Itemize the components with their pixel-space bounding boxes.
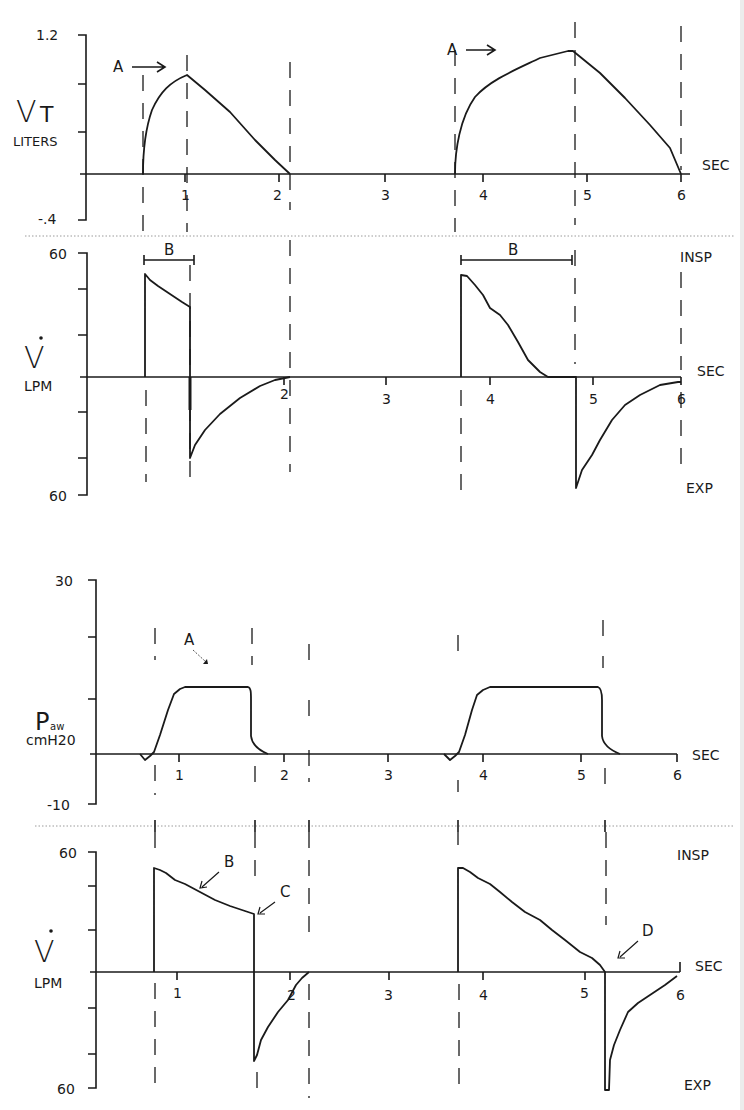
y-label-p-sub: aw — [50, 721, 64, 732]
annotation-a: A — [184, 631, 195, 649]
pressure-trace-breath-2 — [444, 687, 620, 760]
x-tick-label: 2 — [280, 767, 289, 783]
annotation-c: C — [280, 883, 290, 901]
y-axis — [88, 580, 96, 804]
y-label-vdot: V — [34, 934, 55, 969]
insp-label: INSP — [680, 249, 712, 265]
flow-trace-breath-2 — [458, 868, 677, 1090]
x-tick-label: 1 — [175, 767, 184, 783]
y-tick-top: 30 — [55, 573, 73, 589]
pressure-trace-breath-1 — [140, 687, 268, 760]
x-tick-label: 4 — [479, 187, 488, 203]
annotation-d: D — [642, 922, 654, 940]
exp-label: EXP — [686, 480, 713, 496]
y-label-unit: LITERS — [13, 134, 58, 149]
page-edge-shadow — [740, 0, 744, 1110]
panel-flow-2: 60 60 V LPM 1 2 3 4 5 6 INSP SEC EXP B C… — [34, 832, 723, 1098]
panel-airway-pressure: 30 -10 P aw cmH20 1 2 3 4 5 6 SEC A — [26, 573, 720, 813]
y-tick-bottom: -10 — [47, 797, 70, 813]
dashed-markers — [143, 22, 681, 232]
x-ticks — [179, 754, 677, 762]
x-tick-label: 6 — [676, 987, 685, 1003]
annotation-b: B — [508, 241, 518, 259]
x-ticks — [185, 174, 681, 182]
x-tick-label: 4 — [479, 767, 488, 783]
x-tick-label: 3 — [384, 987, 393, 1003]
arrow-b-icon — [200, 872, 219, 888]
x-tick-label: 5 — [589, 391, 598, 407]
x-tick-label: 1 — [181, 187, 190, 203]
x-tick-label: 5 — [580, 985, 589, 1001]
x-tick-label: 2 — [273, 187, 282, 203]
y-label-vt-sub: T — [39, 102, 54, 127]
y-tick-bottom: -.4 — [38, 211, 57, 227]
x-tick-label: 3 — [384, 767, 393, 783]
exp-label: EXP — [684, 1077, 711, 1093]
dashed-markers — [155, 620, 605, 795]
x-axis-label: SEC — [697, 363, 725, 379]
arrow-d-icon — [618, 941, 638, 958]
dot-accent-icon — [49, 929, 53, 933]
y-label-vdot: V — [24, 340, 45, 375]
ventilator-waveform-figure: 1.2 -.4 V T LITERS 1 2 3 4 5 6 SEC A A 6… — [0, 0, 744, 1110]
x-axis-label: SEC — [702, 157, 730, 173]
dashed-markers — [146, 240, 681, 490]
x-tick-label: 6 — [677, 187, 686, 203]
y-label-vt: V — [16, 94, 37, 129]
y-axis — [78, 35, 86, 220]
panel-flow-1: 60 60 V LPM 2 3 4 5 6 INSP SEC EXP B B — [24, 240, 725, 504]
annotation-a: A — [113, 58, 124, 76]
arrow-c-icon — [258, 902, 275, 914]
insp-label: INSP — [677, 847, 709, 863]
volume-trace-breath-1 — [143, 75, 290, 174]
x-tick-label: 3 — [382, 391, 391, 407]
dashed-markers — [155, 832, 606, 1098]
volume-trace-breath-2 — [455, 51, 681, 174]
dot-accent-icon — [39, 336, 43, 340]
x-tick-label: 1 — [173, 985, 182, 1001]
y-label-unit: LPM — [24, 378, 52, 394]
panel-tidal-volume: 1.2 -.4 V T LITERS 1 2 3 4 5 6 SEC A A — [13, 22, 730, 232]
y-tick-top: 60 — [49, 246, 67, 262]
flow-trace-breath-1 — [145, 274, 290, 458]
annotation-a: A — [447, 41, 458, 59]
flow-trace-breath-2 — [461, 275, 681, 488]
divider-crossing-ticks — [155, 820, 605, 832]
x-tick-label: 5 — [583, 187, 592, 203]
y-tick-bottom: 60 — [49, 488, 67, 504]
annotation-b: B — [224, 853, 234, 871]
x-tick-label: 3 — [381, 187, 390, 203]
y-label-unit: cmH20 — [26, 732, 76, 748]
annotation-b: B — [164, 241, 174, 259]
y-axis — [78, 253, 87, 495]
x-tick-label: 5 — [577, 767, 586, 783]
x-tick-label: 6 — [673, 767, 682, 783]
y-tick-top: 1.2 — [36, 27, 58, 43]
y-tick-bottom: 60 — [57, 1081, 75, 1097]
y-tick-top: 60 — [59, 845, 77, 861]
x-ticks — [284, 377, 681, 385]
y-axis — [88, 852, 96, 1088]
arrow-right-icon — [466, 45, 495, 55]
x-tick-label: 4 — [486, 391, 495, 407]
x-tick-label: 4 — [479, 987, 488, 1003]
y-label-unit: LPM — [34, 975, 62, 991]
arrow-down-right-icon — [193, 650, 206, 662]
x-axis-label: SEC — [695, 958, 723, 974]
arrow-right-icon — [132, 62, 165, 72]
x-tick-label: 2 — [280, 386, 289, 402]
x-axis-label: SEC — [692, 747, 720, 763]
